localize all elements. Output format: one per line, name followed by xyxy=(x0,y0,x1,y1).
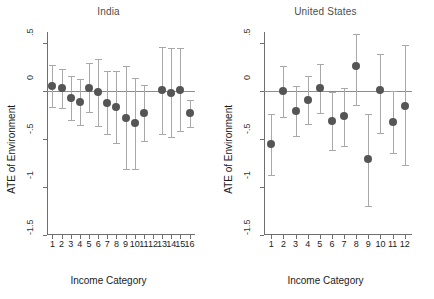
data-point[interactable] xyxy=(304,96,312,104)
data-point[interactable] xyxy=(267,140,275,148)
error-bar-cap-upper xyxy=(177,48,184,49)
error-bar-cap-lower xyxy=(293,136,300,137)
data-point[interactable] xyxy=(328,117,336,125)
error-bar-cap-upper xyxy=(268,114,275,115)
error-bar-cap-upper xyxy=(187,100,194,101)
x-axis-label-united-states: Income Category xyxy=(217,275,434,286)
data-point[interactable] xyxy=(122,114,130,122)
error-bar-cap-lower xyxy=(329,150,336,151)
error-bar-cap-lower xyxy=(59,108,66,109)
plot-area-united-states: .50-.5-1-1.5123456789101112 xyxy=(264,32,412,235)
error-bar-cap-upper xyxy=(365,114,372,115)
error-bar-cap-lower xyxy=(95,126,102,127)
y-axis-tick-label: -1.5 xyxy=(21,219,39,251)
error-bar-cap-lower xyxy=(280,117,287,118)
data-point[interactable] xyxy=(94,88,102,96)
panel-title-united-states: United States xyxy=(217,6,434,17)
data-point[interactable] xyxy=(48,82,56,90)
error-bar-cap-upper xyxy=(77,79,84,80)
error-bar-cap-lower xyxy=(317,113,324,114)
x-axis-label-india: Income Category xyxy=(0,275,217,286)
data-point[interactable] xyxy=(167,89,175,97)
data-point[interactable] xyxy=(389,118,397,126)
error-bar-cap-upper xyxy=(353,34,360,35)
error-bar-cap-lower xyxy=(365,206,372,207)
data-point[interactable] xyxy=(186,109,194,117)
data-point[interactable] xyxy=(103,99,111,107)
error-bar-cap-lower xyxy=(49,107,56,108)
error-bar-cap-upper xyxy=(113,71,120,72)
y-axis-line xyxy=(264,32,265,235)
error-bar-cap-lower xyxy=(168,137,175,138)
data-point[interactable] xyxy=(85,84,93,92)
error-bar-cap-upper xyxy=(329,92,336,93)
y-axis-label-text: ATE of Environment xyxy=(223,105,234,194)
panel-title-india: India xyxy=(0,6,217,17)
panel-united-states: United States ATE of Environment .50-.5-… xyxy=(217,0,434,299)
error-bar-cap-lower xyxy=(268,175,275,176)
error-bar-cap-upper xyxy=(341,88,348,89)
x-axis-line xyxy=(47,234,195,235)
y-axis-tick-label: -.5 xyxy=(21,123,39,155)
error-bar-cap-upper xyxy=(402,45,409,46)
y-axis-tick xyxy=(260,43,264,44)
data-point[interactable] xyxy=(140,109,148,117)
data-point[interactable] xyxy=(352,62,360,70)
error-bar-cap-upper xyxy=(123,66,130,67)
plot-area-india: .50-.5-1-1.512345678910111213141516 xyxy=(47,32,195,235)
data-point[interactable] xyxy=(131,119,139,127)
y-axis-tick-label: 0 xyxy=(21,75,39,107)
error-bar-cap-lower xyxy=(187,127,194,128)
error-bar-cap-lower xyxy=(177,131,184,132)
error-bar-cap-upper xyxy=(59,69,66,70)
error-bar-cap-upper xyxy=(86,63,93,64)
data-point[interactable] xyxy=(112,103,120,111)
y-axis-tick xyxy=(43,235,47,236)
y-axis-tick xyxy=(260,235,264,236)
error-bar-cap-lower xyxy=(305,124,312,125)
data-point[interactable] xyxy=(176,86,184,94)
figure-root: India ATE of Environment .50-.5-1-1.5123… xyxy=(0,0,434,299)
x-axis-tick-label: 16 xyxy=(181,240,199,249)
error-bar-cap-lower xyxy=(123,169,130,170)
y-axis-tick xyxy=(43,187,47,188)
data-point[interactable] xyxy=(364,155,372,163)
data-point[interactable] xyxy=(67,94,75,102)
y-axis-tick-label: -1.5 xyxy=(238,219,256,251)
error-bar-cap-lower xyxy=(377,133,384,134)
error-bar-cap-upper xyxy=(280,66,287,67)
error-bar-cap-lower xyxy=(86,112,93,113)
error-bar-cap-lower xyxy=(113,143,120,144)
error-bar-cap-upper xyxy=(104,71,111,72)
error-bar-cap-lower xyxy=(68,120,75,121)
error-bar-cap-lower xyxy=(77,125,84,126)
data-point[interactable] xyxy=(292,107,300,115)
x-axis-line xyxy=(264,234,412,235)
data-point[interactable] xyxy=(76,98,84,106)
y-axis-label-india: ATE of Environment xyxy=(6,0,17,299)
error-bar-cap-upper xyxy=(305,76,312,77)
error-bar-cap-upper xyxy=(141,85,148,86)
y-axis-tick xyxy=(43,43,47,44)
y-axis-tick xyxy=(260,139,264,140)
error-bar-cap-upper xyxy=(49,65,56,66)
panel-india: India ATE of Environment .50-.5-1-1.5123… xyxy=(0,0,217,299)
data-point[interactable] xyxy=(401,102,409,110)
data-point[interactable] xyxy=(376,86,384,94)
error-bar-cap-upper xyxy=(390,91,397,92)
y-axis-tick-label: -1 xyxy=(21,171,39,203)
error-bar-cap-lower xyxy=(390,153,397,154)
y-axis-tick xyxy=(260,187,264,188)
error-bar-cap-upper xyxy=(68,76,75,77)
error-bar-cap-upper xyxy=(168,48,175,49)
data-point[interactable] xyxy=(279,87,287,95)
data-point[interactable] xyxy=(158,86,166,94)
error-bar-cap-upper xyxy=(159,47,166,48)
y-axis-tick-label: -.5 xyxy=(238,123,256,155)
error-bar-cap-upper xyxy=(95,59,102,60)
y-axis-label-text: ATE of Environment xyxy=(6,105,17,194)
data-point[interactable] xyxy=(340,112,348,120)
y-axis-tick-label: 0 xyxy=(238,75,256,107)
y-axis-line xyxy=(47,32,48,235)
error-bar-cap-upper xyxy=(293,86,300,87)
